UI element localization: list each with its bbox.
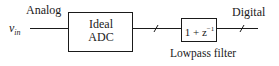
filter-caption: Lowpass filter <box>170 47 236 59</box>
digital-label: Digital <box>232 6 265 18</box>
filter-expr-base: 1 + z <box>185 26 207 38</box>
filter-expression: 1 + z−1 <box>182 23 217 39</box>
vin-subscript: in <box>14 28 20 37</box>
filter-expr-exponent: −1 <box>207 25 214 33</box>
adc-label-line2: ADC <box>69 31 133 44</box>
analog-label: Analog <box>26 4 61 16</box>
vin-label: vin <box>9 22 21 39</box>
adc-label: Ideal ADC <box>69 18 133 44</box>
